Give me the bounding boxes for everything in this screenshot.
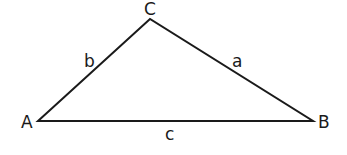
vertex-label-a: A [21, 112, 33, 132]
vertex-label-c: C [144, 0, 156, 19]
triangle-shape [38, 19, 313, 121]
side-label-c: c [165, 124, 174, 144]
side-label-a: a [232, 51, 242, 71]
triangle-diagram: C A B b a c [0, 0, 347, 155]
vertex-label-b: B [318, 112, 330, 132]
triangle-svg: C A B b a c [0, 0, 347, 155]
side-label-b: b [84, 51, 95, 71]
